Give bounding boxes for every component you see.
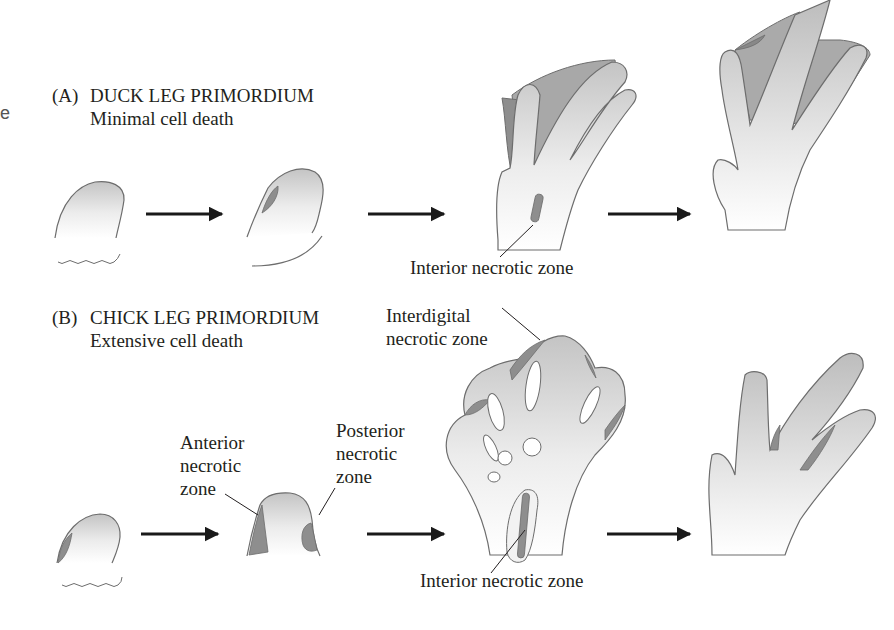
duck-stage-4-adult-webbed-foot <box>713 0 870 230</box>
limb-diagram-illustration <box>0 0 894 630</box>
duck-stage-3-webbed-foot <box>497 60 636 257</box>
chick-stage-4-separated-digits-foot <box>709 353 876 555</box>
chick-stage-1-bud <box>57 514 122 587</box>
duck-stage-2-bud <box>247 169 323 266</box>
duck-stage-1-bud <box>55 182 124 264</box>
chick-stage-3-paddle-with-digits <box>446 308 625 573</box>
chick-stage-2-bud <box>225 488 335 556</box>
